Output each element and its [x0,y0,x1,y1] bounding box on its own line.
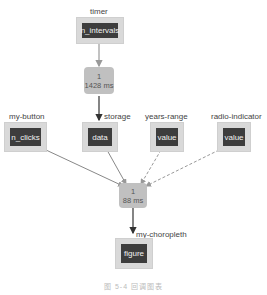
callback-1-time: 1428 ms [84,81,114,90]
my-choropleth-component[interactable]: figure [115,238,153,269]
years-range-component[interactable]: value [150,122,184,152]
my-button-component[interactable]: n_clicks [4,122,47,152]
storage-data-prop[interactable]: data [88,128,112,146]
timer-n-intervals-prop[interactable]: n_intervals [82,23,118,38]
radio-indicator-value-prop[interactable]: value [223,128,245,146]
callback-node-1[interactable]: 1 1428 ms [84,67,114,94]
radio-indicator-component[interactable]: value [217,122,251,152]
callback-1-count: 1 [84,72,114,81]
figure-caption: 图 5-4 回调图表 [0,281,267,291]
callback-2-count: 1 [119,187,147,196]
my-button-n-clicks-prop[interactable]: n_clicks [10,128,41,146]
years-range-value-prop[interactable]: value [156,128,178,146]
my-button-label: my-button [9,112,45,121]
timer-label: timer [90,7,108,16]
storage-label: storage [104,112,131,121]
radio-indicator-label: radio-indicator [211,112,262,121]
timer-component[interactable]: n_intervals [76,17,124,44]
callback-2-time: 88 ms [119,196,147,205]
storage-component[interactable]: data [82,122,118,152]
years-range-label: years-range [145,112,188,121]
my-choropleth-figure-prop[interactable]: figure [121,244,147,263]
callback-node-2[interactable]: 1 88 ms [119,183,147,208]
